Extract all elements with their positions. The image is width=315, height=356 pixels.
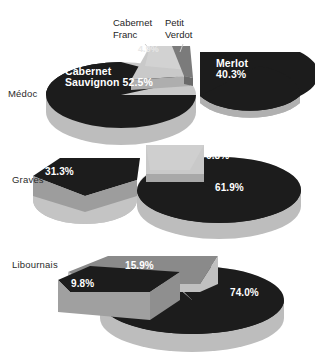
slice-label-medoc-merlot-line2: 40.3%: [216, 69, 248, 80]
slice-label-libournais-cabernet-sauvignon: 9.8%: [71, 278, 94, 289]
libournais-slice-cabernet-sauvignon: [58, 266, 180, 320]
slice-label-medoc-cabernet-sauvignon: Cabernet Sauvignon 52.5%: [65, 66, 185, 88]
region-label-graves: Graves: [12, 174, 44, 185]
slice-label-medoc-cs-line2: Sauvignon 52.5%: [65, 77, 185, 88]
region-label-libournais: Libournais: [12, 259, 58, 270]
callout-cabernet-franc-line2: Franc: [113, 29, 152, 41]
slice-label-graves-cabernet-sauvignon: 31.3%: [45, 166, 74, 177]
three-pie-chart-figure: Médoc Graves Libournais Cabernet Franc P…: [0, 0, 315, 356]
region-label-medoc: Médoc: [8, 88, 38, 99]
pie-medoc: [46, 44, 315, 145]
callout-cabernet-franc: Cabernet Franc: [113, 17, 152, 40]
callout-cabernet-franc-line1: Cabernet: [113, 17, 152, 29]
callout-petit-verdot-line2: Verdot: [165, 29, 192, 41]
slice-label-medoc-merlot: Merlot 40.3%: [216, 58, 248, 80]
callout-petit-verdot-line1: Petit: [165, 17, 192, 29]
callout-petit-verdot: Petit Verdot: [165, 17, 192, 40]
slice-label-graves-merlot: 61.9%: [215, 182, 244, 193]
slice-label-medoc-cabernet-franc: 4.9%: [138, 44, 159, 55]
slice-label-graves-other: 6.8%: [206, 150, 229, 161]
slice-label-libournais-merlot: 74.0%: [230, 287, 259, 298]
pie-libournais: [58, 256, 284, 352]
graves-slice-other: [146, 145, 204, 182]
slice-label-libournais-other: 15.9%: [125, 260, 154, 271]
pie-graves: [33, 145, 301, 239]
